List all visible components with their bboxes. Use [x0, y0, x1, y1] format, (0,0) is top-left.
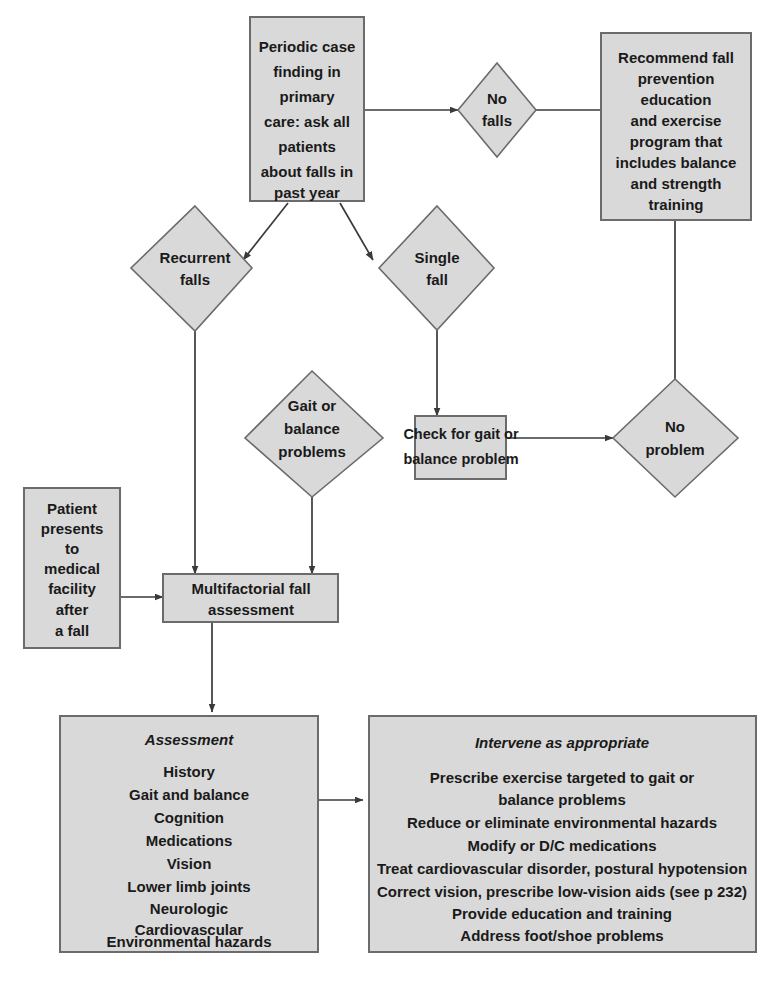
recurrent-falls-line-1: falls [180, 271, 210, 288]
intervene-heading: Intervene as appropriate [475, 734, 649, 751]
node-recommend-fall-prevention[interactable]: Recommend fall prevention education and … [601, 33, 751, 220]
node-multifactorial-fall-assessment[interactable]: Multifactorial fall assessment [163, 574, 338, 622]
periodic-line-5: about falls in [261, 163, 354, 180]
assessment-item-2: Cognition [154, 809, 224, 826]
gait-problems-line-0: Gait or [288, 397, 337, 414]
patient-line-5: after [56, 601, 89, 618]
falls-algorithm-flowchart: Periodic case finding in primary care: a… [0, 0, 781, 990]
no-falls-line-0: No [487, 90, 507, 107]
recurrent-falls-line-0: Recurrent [160, 249, 231, 266]
recommend-line-5: includes balance [616, 154, 737, 171]
edge-layer [120, 110, 675, 800]
assessment-item-3: Medications [146, 832, 233, 849]
assessment-item-4: Vision [167, 855, 212, 872]
periodic-line-2: primary [279, 88, 335, 105]
gait-problems-line-1: balance [284, 420, 340, 437]
node-assessment-panel[interactable]: Assessment History Gait and balance Cogn… [60, 716, 318, 952]
intervene-item-2: Reduce or eliminate environmental hazard… [407, 814, 717, 831]
edge-periodic-to-recurrent-falls [243, 203, 288, 260]
node-no-falls[interactable]: No falls [458, 63, 536, 157]
node-recurrent-falls-shape [131, 206, 252, 331]
flowchart-canvas: Periodic case finding in primary care: a… [0, 0, 781, 990]
assessment-item-5: Lower limb joints [127, 878, 250, 895]
node-single-fall[interactable]: Single fall [379, 206, 494, 330]
assessment-item-8: Environmental hazards [106, 933, 271, 950]
assessment-item-1: Gait and balance [129, 786, 249, 803]
no-falls-line-1: falls [482, 112, 512, 129]
intervene-item-6: Provide education and training [452, 905, 672, 922]
periodic-line-3: care: ask all [264, 113, 350, 130]
edge-periodic-to-single-fall [340, 203, 373, 260]
check-line-0: Check for gait or [403, 426, 519, 442]
multifactorial-line-0: Multifactorial fall [191, 580, 310, 597]
node-gait-or-balance-problems[interactable]: Gait or balance problems [245, 371, 383, 497]
multifactorial-line-1: assessment [208, 601, 294, 618]
gait-problems-line-2: problems [278, 443, 346, 460]
intervene-item-1: balance problems [498, 791, 626, 808]
node-intervene-panel[interactable]: Intervene as appropriate Prescribe exerc… [369, 716, 756, 952]
assessment-heading: Assessment [144, 731, 234, 748]
node-no-problem-shape [613, 379, 738, 497]
node-recurrent-falls[interactable]: Recurrent falls [131, 206, 252, 331]
patient-line-0: Patient [47, 500, 97, 517]
node-periodic-case-finding[interactable]: Periodic case finding in primary care: a… [250, 17, 364, 201]
recommend-line-1: prevention [638, 70, 715, 87]
node-no-problem[interactable]: No problem [613, 379, 738, 497]
single-fall-line-0: Single [414, 249, 459, 266]
intervene-item-5: Correct vision, prescribe low-vision aid… [377, 883, 747, 900]
intervene-item-0: Prescribe exercise targeted to gait or [430, 769, 694, 786]
single-fall-line-1: fall [426, 271, 448, 288]
node-check-for-gait-or-balance-problem[interactable]: Check for gait or balance problem [403, 416, 519, 479]
no-problem-line-0: No [665, 418, 685, 435]
node-patient-presents[interactable]: Patient presents to medical facility aft… [24, 488, 120, 648]
patient-line-3: medical [44, 560, 100, 577]
patient-line-2: to [65, 540, 79, 557]
intervene-item-4: Treat cardiovascular disorder, postural … [377, 860, 747, 877]
assessment-item-6: Neurologic [150, 900, 228, 917]
recommend-line-7: training [649, 196, 704, 213]
recommend-line-6: and strength [631, 175, 722, 192]
check-line-1: balance problem [403, 451, 518, 467]
node-no-falls-shape [458, 63, 536, 157]
assessment-item-0: History [163, 763, 215, 780]
no-problem-line-1: problem [645, 441, 704, 458]
intervene-item-7: Address foot/shoe problems [460, 927, 663, 944]
recommend-line-2: education [641, 91, 712, 108]
recommend-line-4: program that [630, 133, 723, 150]
intervene-item-3: Modify or D/C medications [467, 837, 656, 854]
patient-line-1: presents [41, 520, 104, 537]
periodic-line-0: Periodic case [259, 38, 356, 55]
recommend-line-3: and exercise [631, 112, 722, 129]
periodic-line-1: finding in [273, 63, 340, 80]
periodic-line-4: patients [278, 138, 336, 155]
node-single-fall-shape [379, 206, 494, 330]
patient-line-6: a fall [55, 622, 89, 639]
patient-line-4: facility [48, 580, 96, 597]
recommend-line-0: Recommend fall [618, 49, 734, 66]
periodic-line-6: past year [274, 184, 340, 201]
